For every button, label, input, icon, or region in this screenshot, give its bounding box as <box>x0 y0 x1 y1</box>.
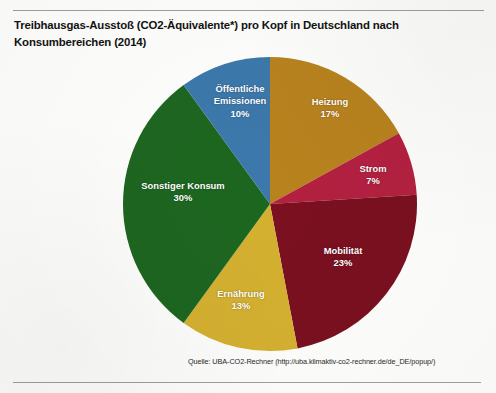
divider-bottom <box>13 382 481 383</box>
pie-label-mobilitaet-name: Mobilität <box>324 245 363 256</box>
pie-label-oeffentliche-emissionen: Öffentliche Emissionen 10% <box>214 83 267 120</box>
pie-label-mobilitaet-value: 23% <box>324 257 363 269</box>
pie-label-sonstiger-konsum-value: 30% <box>141 192 224 204</box>
pie-label-mobilitaet: Mobilität 23% <box>324 245 363 270</box>
pie-label-sonstiger-konsum: Sonstiger Konsum 30% <box>141 180 224 205</box>
pie-label-ernaehrung-name: Ernährung <box>217 288 264 299</box>
pie-label-strom-value: 7% <box>359 175 386 187</box>
pie-label-strom: Strom 7% <box>359 163 386 188</box>
pie-chart: Heizung 17% Strom 7% Mobilität 23% Ernäh… <box>0 0 496 393</box>
pie-label-ernaehrung-value: 13% <box>217 300 264 312</box>
pie-label-heizung-value: 17% <box>312 108 348 120</box>
pie-label-oeffentliche-emissionen-value: 10% <box>214 108 267 120</box>
figure-container: Treibhausgas-Ausstoß (CO2-Äquivalente*) … <box>0 0 496 393</box>
source-note: Quelle: UBA-CO2-Rechner (http://uba.klim… <box>188 357 488 366</box>
pie-label-strom-name: Strom <box>359 163 386 174</box>
pie-label-heizung-name: Heizung <box>312 96 348 107</box>
pie-label-ernaehrung: Ernährung 13% <box>217 288 264 313</box>
pie-label-heizung: Heizung 17% <box>312 96 348 121</box>
pie-label-oeffentliche-emissionen-line2: Emissionen <box>214 96 267 108</box>
pie-label-oeffentliche-emissionen-line1: Öffentliche <box>216 83 265 94</box>
pie-label-sonstiger-konsum-name: Sonstiger Konsum <box>141 180 224 191</box>
